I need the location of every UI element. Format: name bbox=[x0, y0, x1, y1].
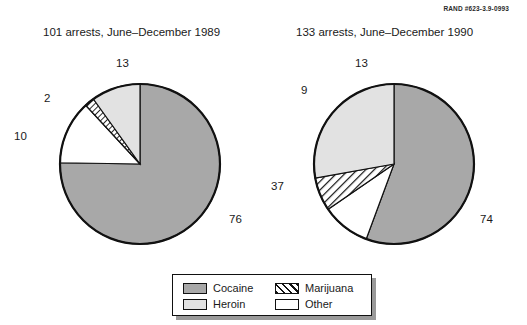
legend-swatch-heroin bbox=[183, 299, 207, 310]
pie-value-label: 76 bbox=[229, 213, 242, 225]
legend-item-marijuana: Marijuana bbox=[275, 283, 365, 294]
pie-value-label: 2 bbox=[44, 92, 50, 104]
legend-swatch-cocaine bbox=[183, 283, 207, 294]
pie-value-label: 10 bbox=[14, 130, 27, 142]
pie-value-label: 9 bbox=[301, 84, 307, 96]
legend-box: CocaineMarijuanaHeroinOther bbox=[172, 274, 372, 316]
legend-item-other: Other bbox=[275, 299, 365, 310]
pie-chart-1990 bbox=[314, 84, 474, 244]
legend-item-heroin: Heroin bbox=[183, 299, 275, 310]
legend-label-cocaine: Cocaine bbox=[213, 283, 253, 294]
pie-slice-heroin bbox=[314, 84, 394, 178]
pie-value-label: 37 bbox=[271, 180, 284, 192]
legend-item-cocaine: Cocaine bbox=[183, 283, 275, 294]
figure-root: RAND #623-3.9-0993 101 arrests, June–Dec… bbox=[0, 0, 527, 325]
legend-swatch-marijuana bbox=[275, 283, 299, 294]
legend-label-marijuana: Marijuana bbox=[305, 283, 353, 294]
legend-label-heroin: Heroin bbox=[213, 299, 245, 310]
pie-value-label: 13 bbox=[116, 57, 129, 69]
pie-value-label: 13 bbox=[355, 57, 368, 69]
legend-grid: CocaineMarijuanaHeroinOther bbox=[183, 280, 365, 312]
pie-chart-1989 bbox=[60, 84, 220, 244]
legend-swatch-other bbox=[275, 299, 299, 310]
legend-label-other: Other bbox=[305, 299, 333, 310]
pie-value-label: 74 bbox=[480, 213, 493, 225]
